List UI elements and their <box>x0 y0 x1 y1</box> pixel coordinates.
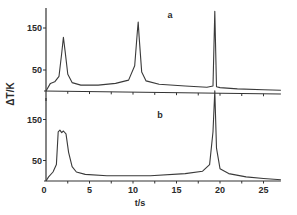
x-tick-label: 0 <box>41 185 46 195</box>
panel-label-a: a <box>167 10 173 20</box>
x-tick-label: 10 <box>128 185 138 195</box>
curves <box>46 11 281 181</box>
x-axis-title: t/s <box>135 198 146 208</box>
y-tick-label: 150 <box>27 23 42 33</box>
x-tick-label: 20 <box>215 185 225 195</box>
curve-b <box>46 91 281 181</box>
y-axis-title: ΔT/K <box>5 82 16 106</box>
y-tick-label: 150 <box>27 115 42 125</box>
x-tick-label: 5 <box>87 185 92 195</box>
y-tick-label: 50 <box>32 156 42 166</box>
x-tick-label: 25 <box>258 185 268 195</box>
x-tick-label: 15 <box>171 185 181 195</box>
panel-label-b: b <box>157 110 163 120</box>
y-tick-label: 50 <box>32 65 42 75</box>
chart: 50150a50150b0510152025t/sΔT/K <box>0 0 297 215</box>
x-axis-a <box>44 91 281 94</box>
curve-a <box>46 11 281 91</box>
axes <box>43 8 281 184</box>
